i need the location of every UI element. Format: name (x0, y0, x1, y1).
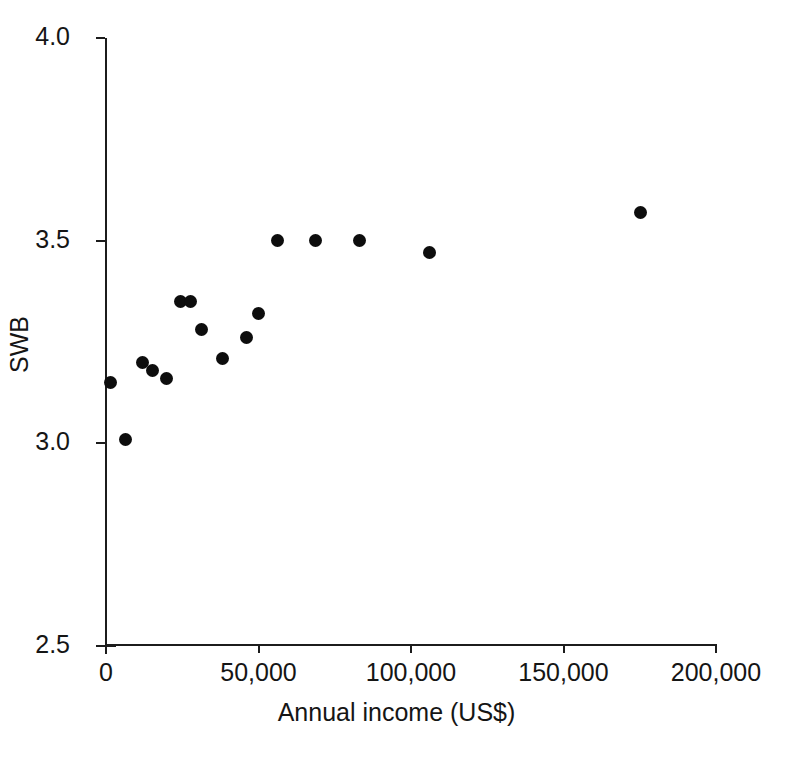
data-point (423, 246, 436, 259)
y-tick-label: 4.0 (35, 22, 70, 51)
plot-area (105, 38, 715, 646)
y-tick-3 (96, 442, 105, 444)
x-axis-title: Annual income (US$) (0, 698, 793, 727)
data-point (184, 295, 197, 308)
y-tick-label: 3.5 (35, 225, 70, 254)
y-axis-line (105, 38, 107, 646)
data-point (252, 307, 265, 320)
x-tick-100000 (410, 644, 412, 653)
data-point (104, 376, 117, 389)
x-tick-label: 150,000 (518, 658, 608, 687)
data-point (146, 364, 159, 377)
data-point (353, 234, 366, 247)
y-tick-3-5 (96, 240, 105, 242)
x-tick-label: 0 (99, 658, 113, 687)
data-point (271, 234, 284, 247)
y-tick-label: 3.0 (35, 427, 70, 456)
y-tick-label: 2.5 (35, 630, 70, 659)
data-point (240, 331, 253, 344)
y-axis-title: SWB (5, 295, 34, 395)
x-tick-label: 100,000 (366, 658, 456, 687)
data-point (309, 234, 322, 247)
x-tick-200000 (715, 644, 717, 653)
y-tick-4 (96, 37, 105, 39)
scatter-plot-figure: 4.03.53.02.5 050,000100,000150,000200,00… (0, 0, 793, 759)
x-tick-label: 200,000 (671, 658, 761, 687)
x-tick-50000 (258, 644, 260, 653)
x-tick-0 (105, 636, 107, 654)
data-point (216, 352, 229, 365)
data-point (195, 323, 208, 336)
data-point (634, 206, 647, 219)
x-tick-label: 50,000 (220, 658, 296, 687)
data-point (119, 433, 132, 446)
data-point (160, 372, 173, 385)
x-tick-150000 (563, 644, 565, 653)
